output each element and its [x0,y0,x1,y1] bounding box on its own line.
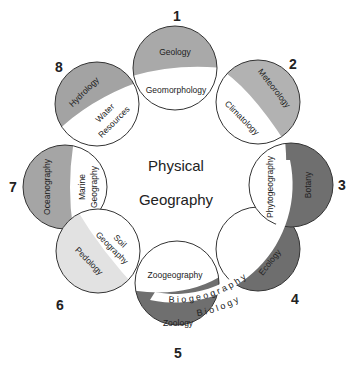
circle-hydrology: Hydrology Water Resources 8 [40,40,150,150]
label-phytogeography: Phytogeography [265,155,275,218]
circle-meteorology: Meteorology Climatology 2 [200,40,320,150]
label-oceanography: Oceanography [42,158,52,215]
label-zoogeography: Zoogeography [148,270,204,280]
title-physical: Physical [148,157,204,174]
number-8: 8 [55,59,63,75]
number-1: 1 [173,8,181,24]
label-geomorphology: Geomorphology [146,85,207,95]
number-7: 7 [9,179,17,195]
label-geography-marine: Geography [89,165,99,208]
title-geography: Geography [139,191,214,208]
number-2: 2 [289,56,297,72]
label-botany: Botany [303,171,313,198]
label-marine: Marine [77,174,87,200]
physical-geography-diagram: Geology Geomorphology 1 Meteorology Clim… [0,0,351,368]
label-geology: Geology [159,47,191,57]
number-5: 5 [174,345,182,361]
number-3: 3 [338,177,346,193]
number-6: 6 [56,297,64,313]
number-4: 4 [291,291,299,307]
label-zoology: Zoology [163,318,194,328]
